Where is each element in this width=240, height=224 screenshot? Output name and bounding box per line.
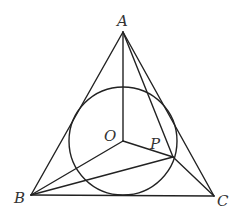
segment-op [123, 141, 173, 157]
label-b: B [13, 189, 25, 207]
inner-segments [31, 32, 214, 196]
label-c: C [217, 192, 229, 210]
segment-bp [31, 157, 173, 195]
segment-ap [123, 32, 173, 157]
segment-pc [173, 157, 214, 196]
label-a: A [115, 12, 128, 30]
label-p: P [149, 135, 161, 153]
segment-ca [123, 32, 214, 196]
geometry-diagram: A B C O P [0, 0, 240, 224]
segment-ob [31, 141, 123, 195]
label-o: O [104, 127, 116, 145]
